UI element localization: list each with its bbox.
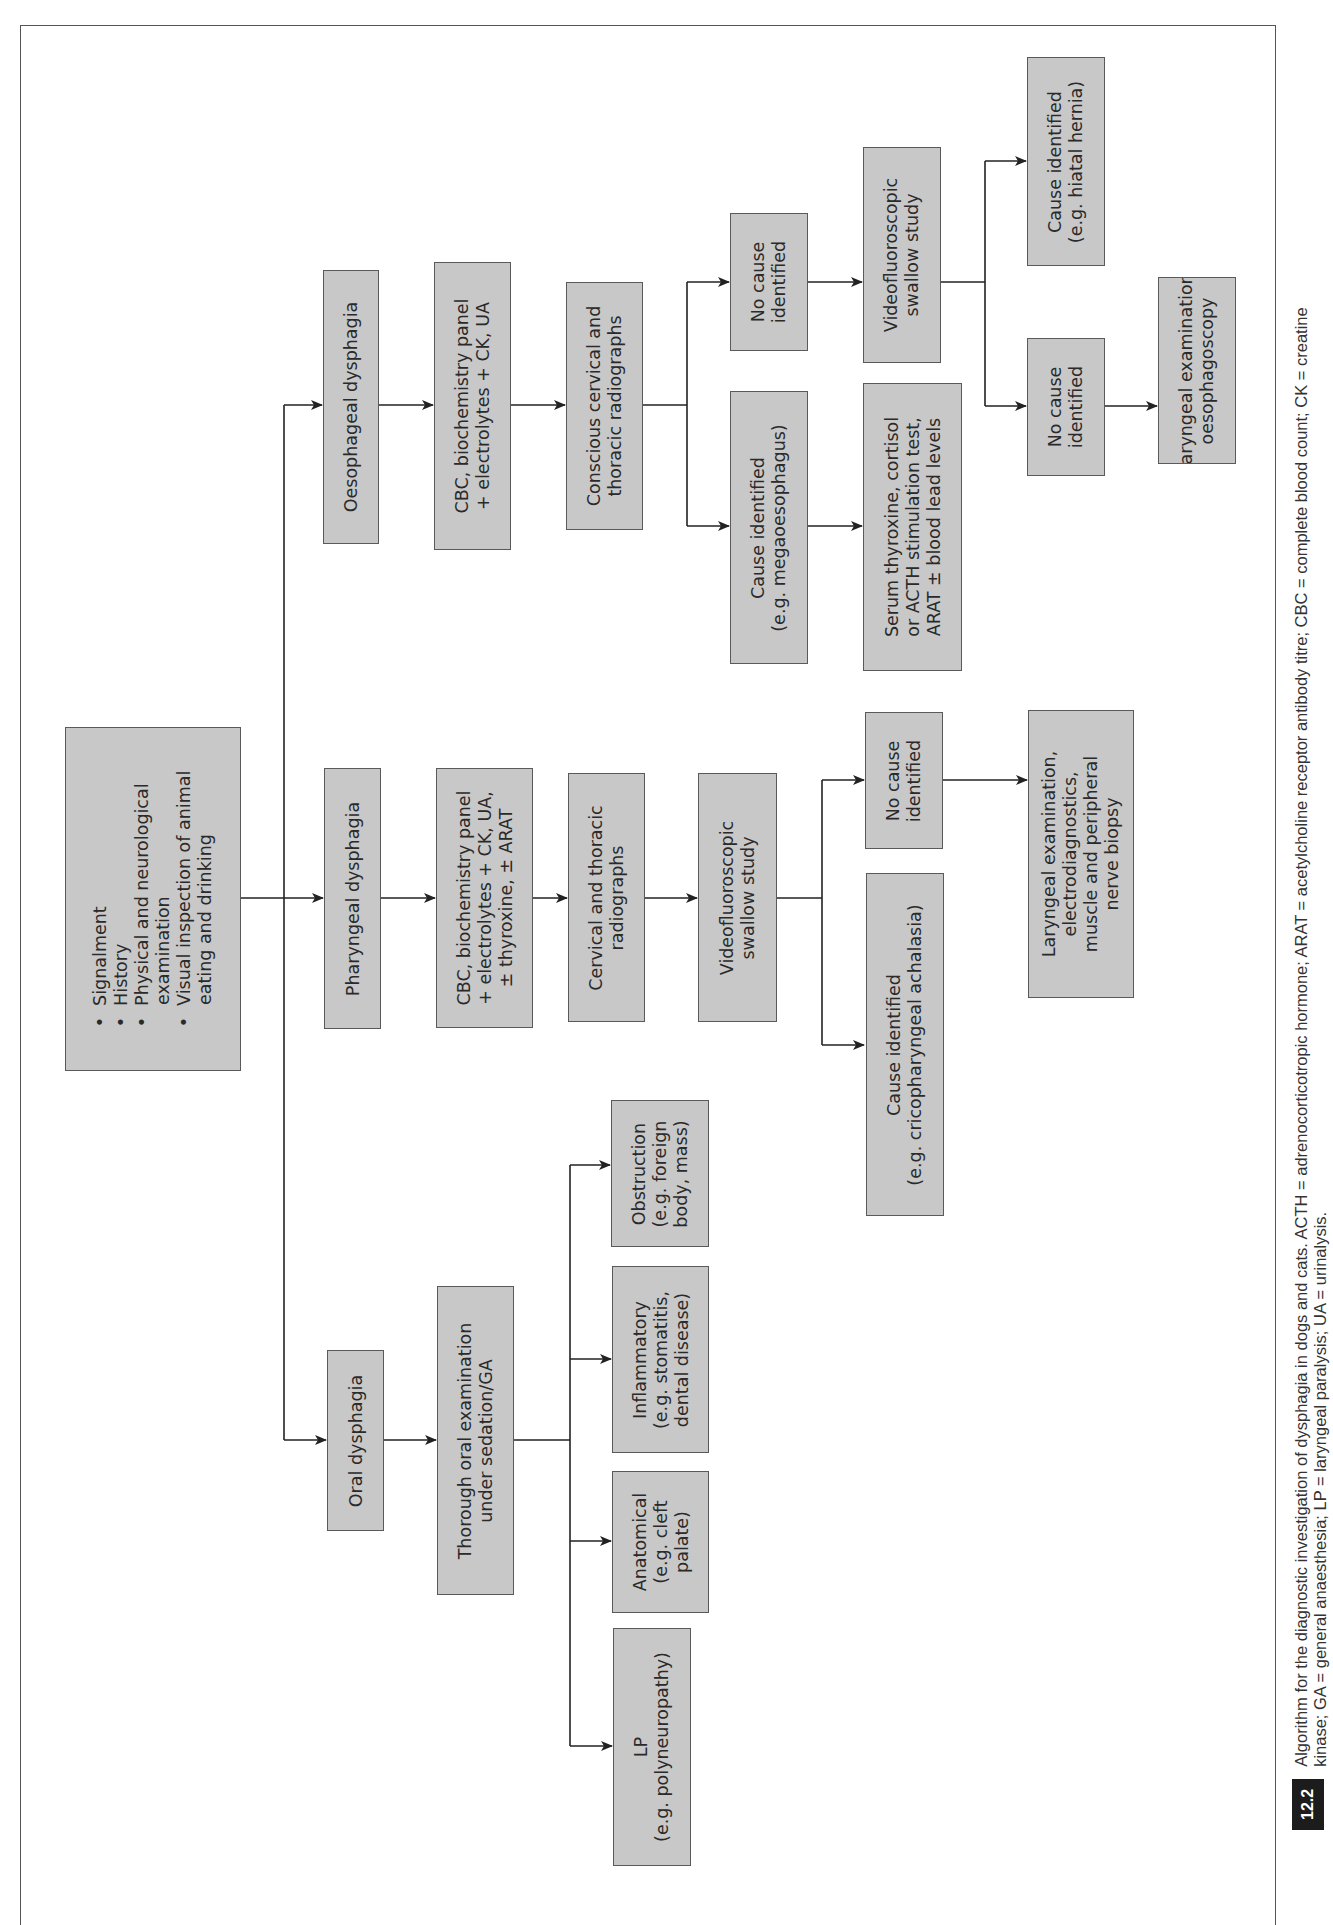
oesophageal-bloods-box: CBC, biochemistry panel + electrolytes +… xyxy=(434,262,511,550)
oesophageal-dysphagia-box: Oesophageal dysphagia xyxy=(323,270,379,544)
oral-exam-label: Thorough oral examination under sedation… xyxy=(455,1322,497,1559)
pharyngeal-final-workup-label: Laryngeal examination, electrodiagnostic… xyxy=(1039,751,1123,958)
pharyngeal-bloods-label: CBC, biochemistry panel + electrolytes +… xyxy=(453,791,516,1006)
oesophageal-dysphagia-label: Oesophageal dysphagia xyxy=(341,302,362,513)
obstruction-box: Obstruction (e.g. foreign body, mass) xyxy=(611,1100,709,1247)
pharyngeal-vfss-label: Videofluoroscopic swallow study xyxy=(717,820,759,974)
cricopharyngeal-achalasia-box: Cause identified (e.g. cricopharyngeal a… xyxy=(866,873,944,1216)
oral-dysphagia-box: Oral dysphagia xyxy=(327,1350,384,1531)
megaoesophagus-label: Cause identified (e.g. megaoesophagus) xyxy=(748,424,790,631)
oesophageal-radiographs-box: Conscious cervical and thoracic radiogra… xyxy=(566,282,643,530)
pharyngeal-dysphagia-label: Pharyngeal dysphagia xyxy=(342,801,363,995)
inflammatory-label: Inflammatory (e.g. stomatitis, dental di… xyxy=(629,1291,692,1429)
pharyngeal-final-workup-box: Laryngeal examination, electrodiagnostic… xyxy=(1028,710,1134,998)
pharyngeal-vfss-box: Videofluoroscopic swallow study xyxy=(698,773,777,1022)
oral-dysphagia-label: Oral dysphagia xyxy=(345,1374,366,1506)
hiatal-hernia-box: Cause identified (e.g. hiatal hernia) xyxy=(1027,57,1105,266)
oesophagoscopy-box: Laryngeal examination, oesophagoscopy xyxy=(1158,277,1236,464)
hiatal-hernia-label: Cause identified (e.g. hiatal hernia) xyxy=(1045,80,1087,242)
anatomical-box: Anatomical (e.g. cleft palate) xyxy=(612,1471,709,1613)
serum-tests-label: Serum thyroxine, cortisol or ACTH stimul… xyxy=(881,417,944,637)
caption-line-2: kinase; GA = general anaesthesia; LP = l… xyxy=(1311,307,1330,1767)
lp-box: LP (e.g. polyneuropathy) xyxy=(613,1628,691,1866)
oesophageal-bloods-label: CBC, biochemistry panel + electrolytes +… xyxy=(452,299,494,514)
figure-number-badge: 12.2 xyxy=(1292,1779,1324,1830)
oesophageal-no-cause-label: No cause identified xyxy=(748,241,790,323)
oesophagoscopy-label: Laryngeal examination, oesophagoscopy xyxy=(1176,277,1218,464)
megaoesophagus-box: Cause identified (e.g. megaoesophagus) xyxy=(730,391,808,664)
oral-exam-box: Thorough oral examination under sedation… xyxy=(437,1286,514,1595)
anatomical-label: Anatomical (e.g. cleft palate) xyxy=(629,1493,692,1591)
pharyngeal-dysphagia-box: Pharyngeal dysphagia xyxy=(324,768,381,1029)
inflammatory-box: Inflammatory (e.g. stomatitis, dental di… xyxy=(612,1266,709,1453)
obstruction-label: Obstruction (e.g. foreign body, mass) xyxy=(629,1120,692,1227)
pharyngeal-bloods-box: CBC, biochemistry panel + electrolytes +… xyxy=(436,768,533,1028)
oesophageal-vfss-label: Videofluoroscopic swallow study xyxy=(881,178,923,332)
serum-tests-box: Serum thyroxine, cortisol or ACTH stimul… xyxy=(863,383,962,671)
oesophageal-vfss-no-cause-box: No cause identified xyxy=(1027,338,1105,476)
figure-caption: 12.2 Algorithm for the diagnostic invest… xyxy=(1292,307,1330,1830)
pharyngeal-radiographs-label: Cervical and thoracic radiographs xyxy=(586,805,628,990)
pharyngeal-no-cause-label: No cause identified xyxy=(883,739,925,821)
pharyngeal-radiographs-box: Cervical and thoracic radiographs xyxy=(568,773,645,1022)
oesophageal-radiographs-label: Conscious cervical and thoracic radiogra… xyxy=(584,306,626,507)
start-assessment-text: • Signalment • History • Physical and ne… xyxy=(90,771,216,1028)
lp-label: LP (e.g. polyneuropathy) xyxy=(631,1652,673,1842)
caption-line-1: Algorithm for the diagnostic investigati… xyxy=(1292,307,1311,1767)
oesophageal-vfss-no-cause-label: No cause identified xyxy=(1045,366,1087,448)
cricopharyngeal-achalasia-label: Cause identified (e.g. cricopharyngeal a… xyxy=(884,904,926,1185)
oesophageal-no-cause-box: No cause identified xyxy=(730,213,808,351)
pharyngeal-no-cause-box: No cause identified xyxy=(865,712,943,849)
start-assessment-box: • Signalment • History • Physical and ne… xyxy=(65,727,241,1071)
oesophageal-vfss-box: Videofluoroscopic swallow study xyxy=(863,147,941,363)
